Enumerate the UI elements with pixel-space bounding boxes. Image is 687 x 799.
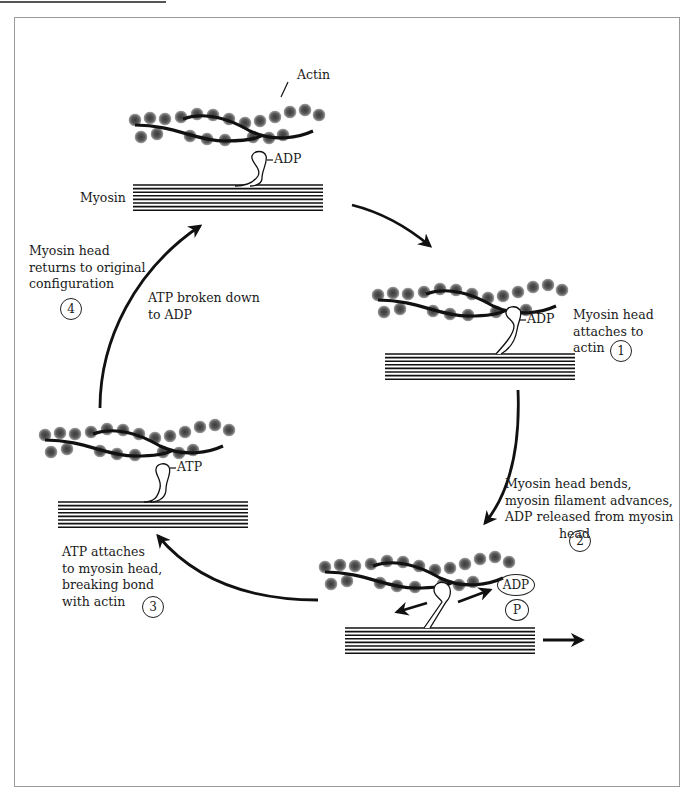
- cycle-arrow-2-to-3: [158, 536, 318, 600]
- phosphate-bubble: P: [505, 599, 529, 621]
- adp-label-top: ADP: [274, 151, 301, 168]
- step-4-badge: 4: [60, 298, 82, 320]
- left-actin-filament: [38, 418, 236, 462]
- atp-label-left: ATP: [177, 459, 202, 476]
- adp-label-right: ADP: [527, 311, 554, 328]
- right-myosin-filament: [385, 354, 575, 379]
- top-myosin-filament: [133, 185, 323, 210]
- left-myosin-head: [144, 464, 170, 502]
- actin-label: Actin: [297, 67, 330, 84]
- top-actin-filament: [128, 103, 326, 147]
- phosphate-label: P: [513, 603, 521, 617]
- myosin-label: Myosin: [80, 190, 126, 207]
- adp-released-bubble: ADP: [497, 574, 535, 596]
- atp-breakdown-note: ATP broken down to ADP: [148, 290, 260, 323]
- adp-released-label: ADP: [503, 578, 529, 592]
- cycle-diagram: [0, 0, 687, 799]
- step-2-badge: 2: [569, 530, 591, 552]
- bottom-actin-filament: [318, 550, 516, 594]
- step-1-badge: 1: [610, 340, 632, 362]
- step-2-text: Myosin head bends, myosin filament advan…: [505, 476, 673, 542]
- step-4-text: Myosin head returns to original configur…: [29, 243, 145, 293]
- step-3-badge: 3: [142, 596, 164, 618]
- left-myosin-filament: [58, 502, 248, 527]
- head-pivot-left-arrow: [397, 603, 427, 612]
- top-myosin-head: [235, 152, 266, 187]
- head-pivot-right-arrow: [458, 590, 490, 602]
- actin-leader-line: [281, 82, 288, 97]
- cycle-arrow-4-to-1: [352, 205, 430, 246]
- bottom-myosin-filament: [345, 628, 535, 653]
